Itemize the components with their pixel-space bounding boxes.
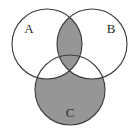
set-label-b: B (107, 21, 116, 36)
venn-diagram-canvas: A B C (0, 0, 139, 132)
set-label-a: A (24, 21, 34, 36)
set-label-c: C (66, 105, 75, 120)
venn-diagram-figure: A B C (0, 0, 139, 132)
